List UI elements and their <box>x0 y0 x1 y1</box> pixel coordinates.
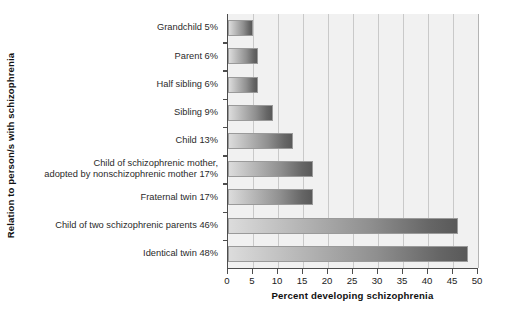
x-axis-tick <box>377 269 378 274</box>
gridline <box>478 14 479 268</box>
category-label: Grandchild 5% <box>22 22 218 33</box>
y-axis-title-text: Relation to person/s with schizophrenia <box>6 52 17 237</box>
x-axis-title: Percent developing schizophrenia <box>227 290 478 301</box>
x-axis-tick <box>477 269 478 274</box>
category-label: Sibling 9% <box>22 107 218 118</box>
y-axis-tick <box>223 127 228 128</box>
category-label: Child of schizophrenic mother, adopted b… <box>22 158 218 181</box>
chart-figure: Relation to person/s with schizophrenia … <box>0 0 518 311</box>
bar <box>228 77 258 93</box>
x-axis-tick-labels: 05101520253035404550 <box>227 275 478 289</box>
category-label: Fraternal twin 17% <box>22 192 218 203</box>
y-axis-tick <box>223 42 228 43</box>
x-axis-tick <box>452 269 453 274</box>
x-axis-tick-label: 50 <box>462 275 492 286</box>
x-axis-tick <box>427 269 428 274</box>
category-label: Child 13% <box>22 135 218 146</box>
bar <box>228 246 468 262</box>
y-axis-title: Relation to person/s with schizophrenia <box>0 0 22 290</box>
y-axis-tick <box>223 212 228 213</box>
x-axis-tick <box>327 269 328 274</box>
plot-area <box>227 14 478 268</box>
bar <box>228 189 313 205</box>
x-axis-tick <box>227 269 228 274</box>
category-label-list: Grandchild 5%Parent 6%Half sibling 6%Sib… <box>24 14 222 268</box>
x-axis-tick <box>402 269 403 274</box>
bar <box>228 48 258 64</box>
x-axis-tick <box>302 269 303 274</box>
bar <box>228 218 458 234</box>
x-axis-tick <box>277 269 278 274</box>
y-axis-ticks <box>223 14 228 268</box>
bar <box>228 133 293 149</box>
y-axis-tick <box>223 183 228 184</box>
bar <box>228 20 253 36</box>
y-axis-tick <box>223 155 228 156</box>
y-axis-tick <box>223 99 228 100</box>
bar <box>228 105 273 121</box>
x-axis-tick <box>352 269 353 274</box>
category-label: Parent 6% <box>22 51 218 62</box>
bar-series <box>228 14 478 268</box>
category-label: Half sibling 6% <box>22 79 218 90</box>
y-axis-tick <box>223 70 228 71</box>
bar <box>228 161 313 177</box>
category-label: Child of two schizophrenic parents 46% <box>22 220 218 231</box>
x-axis-ticks <box>227 269 478 274</box>
category-label: Identical twin 48% <box>22 248 218 259</box>
x-axis-tick <box>252 269 253 274</box>
y-axis-tick <box>223 240 228 241</box>
